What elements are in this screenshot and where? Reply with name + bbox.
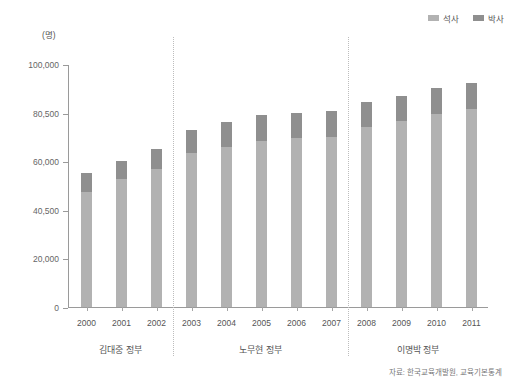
- bar-column[interactable]: [291, 113, 302, 307]
- x-tick-mark: [332, 307, 333, 311]
- bars-layer: 2000200120022003200420052006200720082009…: [69, 65, 488, 307]
- bar-segment-doctorate[interactable]: [396, 96, 407, 122]
- x-tick-label-2008: 2008: [357, 318, 376, 328]
- legend-label-masters: 석사: [443, 12, 459, 24]
- bar-column[interactable]: [221, 122, 232, 307]
- bar-column[interactable]: [396, 96, 407, 307]
- bar-column[interactable]: [151, 149, 162, 307]
- y-tick-label: 80,500: [33, 109, 59, 119]
- group-separator: [348, 37, 349, 356]
- bar-column[interactable]: [186, 130, 197, 307]
- x-tick-label-2010: 2010: [427, 318, 446, 328]
- bar-segment-doctorate[interactable]: [431, 88, 442, 114]
- x-tick-label-2009: 2009: [392, 318, 411, 328]
- bar-column[interactable]: [466, 83, 477, 307]
- y-axis-unit-label: (명): [42, 28, 56, 40]
- y-tick-mark: [63, 211, 68, 212]
- bar-column[interactable]: [361, 102, 372, 307]
- group-label-1: 노무현 정부: [239, 343, 282, 356]
- group-label-2: 이명박 정부: [397, 343, 440, 356]
- x-tick-mark: [402, 307, 403, 311]
- bar-segment-doctorate[interactable]: [81, 173, 92, 191]
- bar-segment-doctorate[interactable]: [151, 149, 162, 168]
- y-tick-label: 100,000: [28, 60, 59, 70]
- bar-segment-doctorate[interactable]: [361, 102, 372, 128]
- y-tick-mark: [63, 114, 68, 115]
- x-tick-mark: [472, 307, 473, 311]
- y-tick-mark: [63, 162, 68, 163]
- x-tick-label-2000: 2000: [77, 318, 96, 328]
- x-tick-label-2006: 2006: [287, 318, 306, 328]
- bar-segment-masters[interactable]: [256, 141, 267, 307]
- bar-segment-masters[interactable]: [291, 138, 302, 307]
- y-tick-label: 40,500: [33, 206, 59, 216]
- legend-swatch-masters: [428, 15, 439, 21]
- legend-item-masters: 석사: [428, 12, 459, 24]
- x-tick-mark: [437, 307, 438, 311]
- bar-segment-doctorate[interactable]: [116, 161, 127, 179]
- bar-column[interactable]: [81, 173, 92, 307]
- bar-column[interactable]: [431, 88, 442, 307]
- bar-segment-doctorate[interactable]: [256, 115, 267, 141]
- x-tick-label-2007: 2007: [322, 318, 341, 328]
- bar-segment-doctorate[interactable]: [326, 111, 337, 137]
- bar-column[interactable]: [256, 115, 267, 307]
- bar-segment-masters[interactable]: [151, 169, 162, 307]
- x-axis-line: [68, 307, 488, 308]
- y-tick-mark: [63, 308, 68, 309]
- x-tick-label-2001: 2001: [112, 318, 131, 328]
- x-tick-mark: [227, 307, 228, 311]
- bar-segment-masters[interactable]: [326, 137, 337, 307]
- bar-segment-doctorate[interactable]: [186, 130, 197, 153]
- chart-legend: 석사 박사: [428, 12, 504, 24]
- legend-item-doctorate: 박사: [473, 12, 504, 24]
- x-tick-mark: [122, 307, 123, 311]
- bar-segment-doctorate[interactable]: [466, 83, 477, 109]
- y-tick-label: 0: [54, 303, 59, 313]
- y-tick-label: 20,000: [33, 254, 59, 264]
- x-tick-mark: [192, 307, 193, 311]
- group-label-0: 김대중 정부: [99, 343, 142, 356]
- x-tick-label-2004: 2004: [217, 318, 236, 328]
- legend-label-doctorate: 박사: [488, 12, 504, 24]
- x-tick-label-2011: 2011: [462, 318, 480, 328]
- bar-segment-masters[interactable]: [221, 147, 232, 307]
- x-tick-mark: [367, 307, 368, 311]
- bar-segment-masters[interactable]: [361, 127, 372, 307]
- bar-column[interactable]: [116, 161, 127, 307]
- bar-segment-masters[interactable]: [81, 192, 92, 307]
- x-tick-label-2002: 2002: [147, 318, 166, 328]
- chart-root: 석사 박사 (명) 200020012002200320042005200620…: [0, 0, 512, 383]
- x-tick-label-2003: 2003: [182, 318, 201, 328]
- y-tick-label: 60,000: [33, 157, 59, 167]
- bar-column[interactable]: [326, 111, 337, 307]
- x-tick-mark: [262, 307, 263, 311]
- x-tick-mark: [87, 307, 88, 311]
- plot-area: 2000200120022003200420052006200720082009…: [68, 65, 488, 308]
- x-tick-label-2005: 2005: [252, 318, 271, 328]
- y-tick-mark: [63, 65, 68, 66]
- bar-segment-masters[interactable]: [396, 121, 407, 307]
- bar-segment-masters[interactable]: [466, 109, 477, 307]
- legend-swatch-doctorate: [473, 15, 484, 21]
- y-tick-mark: [63, 259, 68, 260]
- group-separator: [173, 37, 174, 356]
- bar-segment-masters[interactable]: [186, 153, 197, 307]
- bar-segment-doctorate[interactable]: [291, 113, 302, 139]
- bar-segment-masters[interactable]: [116, 179, 127, 307]
- bar-segment-doctorate[interactable]: [221, 122, 232, 146]
- x-tick-mark: [157, 307, 158, 311]
- source-note: 자료: 한국교육개발원, 교육기본통계: [389, 366, 502, 377]
- x-tick-mark: [297, 307, 298, 311]
- bar-segment-masters[interactable]: [431, 114, 442, 307]
